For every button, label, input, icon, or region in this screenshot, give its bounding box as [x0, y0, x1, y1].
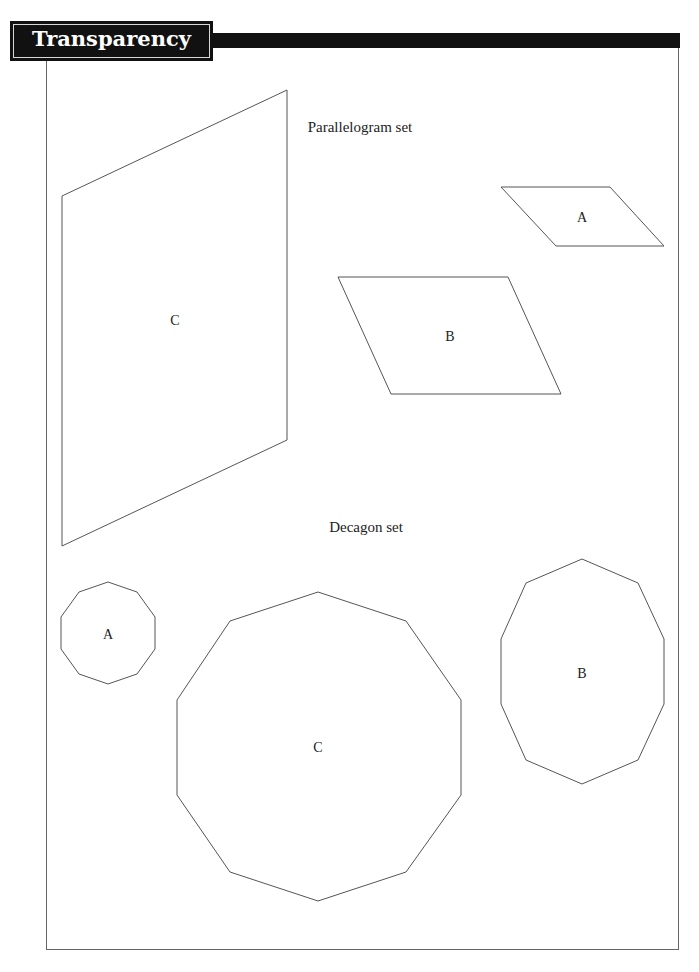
polygon-canvas: Parallelogram set A B C Decagon set A B … [0, 0, 699, 972]
decagon-a: A [61, 582, 155, 684]
parallelogram-a-label: A [577, 210, 588, 225]
parallelogram-a: A [501, 187, 664, 246]
decagon-b-label: B [577, 666, 586, 681]
decagon-c-label: C [313, 740, 322, 755]
parallelogram-c: C [62, 90, 287, 546]
parallelogram-b: B [338, 277, 561, 394]
decagon-c: C [177, 592, 461, 901]
parallelogram-b-label: B [445, 329, 454, 344]
decagon-set-heading: Decagon set [329, 519, 404, 535]
decagon-b: B [501, 559, 664, 784]
decagon-a-label: A [103, 627, 114, 642]
parallelogram-set-heading: Parallelogram set [308, 119, 413, 135]
parallelogram-c-label: C [170, 313, 179, 328]
